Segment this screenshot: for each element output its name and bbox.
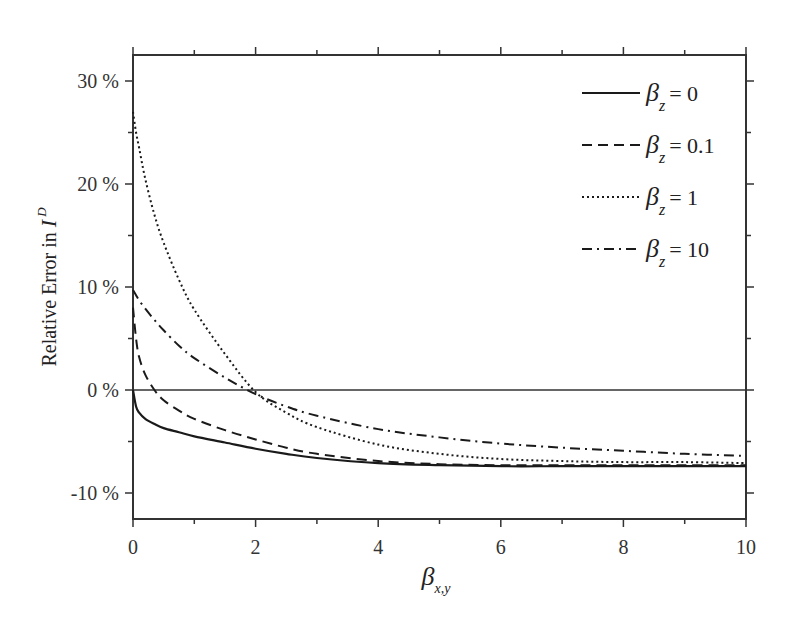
plot-frame [133,55,746,519]
x-tick-label: 0 [128,536,138,558]
x-tick-label: 6 [496,536,506,558]
legend-label: βz= 10 [645,234,709,270]
series-line-0 [133,390,746,466]
legend: βz= 0βz= 0.1βz= 1βz= 10 [582,78,715,270]
y-tick-label: 0 % [87,379,119,401]
axis-labels: βx,yRelative Error in ID [34,207,451,596]
x-tick-label: 4 [373,536,383,558]
line-chart: 024681030 %20 %10 %0 %-10 % βz= 0βz= 0.1… [0,0,786,632]
x-tick-label: 10 [736,536,756,558]
series-line-2 [133,112,746,463]
x-tick-label: 8 [618,536,628,558]
legend-label: βz= 0 [645,78,698,114]
plot-border [133,55,746,519]
axis-ticks: 024681030 %20 %10 %0 %-10 % [71,47,756,558]
legend-label: βz= 1 [645,182,698,218]
y-tick-label: 30 % [77,70,119,92]
legend-label: βz= 0.1 [645,130,715,166]
y-tick-label: 20 % [77,173,119,195]
y-tick-label: -10 % [71,482,119,504]
y-tick-label: 10 % [77,276,119,298]
x-tick-label: 2 [251,536,261,558]
x-axis-label: βx,y [421,562,452,596]
data-series [133,112,746,466]
y-axis-label: Relative Error in ID [34,207,61,367]
